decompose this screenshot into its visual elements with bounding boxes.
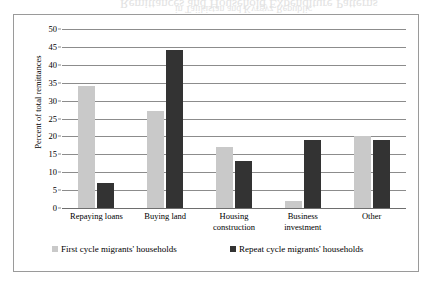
x-axis-label-line: Business bbox=[268, 211, 337, 222]
y-tick-label-5: 5 bbox=[53, 185, 57, 195]
x-axis-label-business-investment: Businessinvestment bbox=[268, 211, 337, 233]
bar-chart: Percent of total remittances 50454035302… bbox=[14, 15, 418, 271]
y-tick-dash-35 bbox=[58, 82, 61, 83]
y-tick-dash-20 bbox=[58, 136, 61, 137]
x-axis-label-buying-land: Buying land bbox=[131, 211, 200, 222]
y-tick-label-40: 40 bbox=[49, 60, 58, 70]
y-tick-dash-10 bbox=[58, 172, 61, 173]
plot-area: 50454035302520151050 bbox=[62, 29, 406, 208]
y-tick-label-15: 15 bbox=[49, 149, 58, 159]
y-tick-label-50: 50 bbox=[49, 24, 58, 34]
figure-frame: Percent of total remittances 50454035302… bbox=[13, 14, 419, 272]
x-axis-label-line: Other bbox=[337, 211, 406, 222]
y-tick-dash-15 bbox=[58, 154, 61, 155]
bars-layer bbox=[62, 29, 406, 208]
chart-legend: First cycle migrants' households Repeat … bbox=[52, 244, 392, 260]
x-axis-label-other: Other bbox=[337, 211, 406, 222]
bar-buying-land-series-2 bbox=[166, 50, 183, 208]
legend-label-first-cycle: First cycle migrants' households bbox=[61, 244, 177, 254]
y-tick-label-25: 25 bbox=[49, 114, 58, 124]
x-axis-label-housing-construction: Housingconstruction bbox=[200, 211, 269, 233]
x-axis-label-repaying-loans: Repaying loans bbox=[62, 211, 131, 222]
y-tick-label-0: 0 bbox=[53, 203, 57, 213]
y-tick-label-45: 45 bbox=[49, 42, 58, 52]
page-bleed-through: Remittances and Household Expenditure Pa… bbox=[0, 0, 434, 14]
x-axis-label-line: investment bbox=[268, 222, 337, 233]
y-tick-label-30: 30 bbox=[49, 96, 58, 106]
x-axis-label-line: Housing bbox=[200, 211, 269, 222]
bleed-through-line-1: Remittances and Household Expenditure Pa… bbox=[120, 0, 378, 12]
legend-item-first-cycle: First cycle migrants' households bbox=[52, 244, 177, 254]
y-tick-label-35: 35 bbox=[49, 78, 58, 88]
bar-housing-construction-series-1 bbox=[216, 147, 233, 208]
y-tick-dash-5 bbox=[58, 190, 61, 191]
x-axis-labels: Repaying loansBuying landHousingconstruc… bbox=[62, 211, 406, 247]
y-tick-dash-30 bbox=[58, 100, 61, 101]
bar-repaying-loans-series-2 bbox=[97, 183, 114, 208]
legend-label-repeat-cycle: Repeat cycle migrants' households bbox=[239, 244, 363, 254]
gridline-0 bbox=[62, 208, 406, 209]
legend-swatch-icon-first-cycle bbox=[52, 246, 58, 252]
y-tick-dash-50 bbox=[58, 29, 61, 30]
legend-swatch-icon-repeat-cycle bbox=[230, 246, 236, 252]
bar-business-investment-series-1 bbox=[285, 201, 302, 208]
bar-buying-land-series-1 bbox=[147, 111, 164, 208]
x-axis-label-line: construction bbox=[200, 222, 269, 233]
x-axis-label-line: Buying land bbox=[131, 211, 200, 222]
y-axis-title: Percent of total remittances bbox=[33, 22, 43, 182]
bleed-through-line-2: in Tajikistan and Kyrgyz Republic bbox=[175, 4, 312, 14]
bar-business-investment-series-2 bbox=[304, 140, 321, 208]
y-tick-label-10: 10 bbox=[49, 167, 58, 177]
y-tick-dash-40 bbox=[58, 64, 61, 65]
y-tick-label-20: 20 bbox=[49, 131, 58, 141]
x-axis-label-line: Repaying loans bbox=[62, 211, 131, 222]
y-tick-dash-45 bbox=[58, 46, 61, 47]
y-tick-dash-0 bbox=[58, 208, 61, 209]
bar-other-series-2 bbox=[373, 140, 390, 208]
bar-housing-construction-series-2 bbox=[235, 161, 252, 208]
bar-other-series-1 bbox=[354, 136, 371, 208]
bar-repaying-loans-series-1 bbox=[78, 86, 95, 208]
legend-item-repeat-cycle: Repeat cycle migrants' households bbox=[230, 244, 363, 254]
y-tick-dash-25 bbox=[58, 118, 61, 119]
